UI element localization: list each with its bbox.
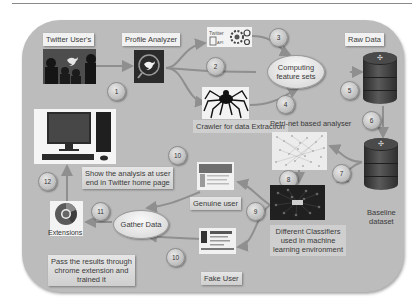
baseline-line2: dataset	[369, 217, 394, 226]
genuine-user-label: Genuine user	[190, 197, 241, 210]
step-6-badge: 6	[362, 111, 381, 130]
neural-network-icon	[270, 185, 325, 220]
step-4-badge: 4	[276, 95, 295, 114]
gear-cluster-icon: Twitter API	[207, 27, 252, 47]
baseline-dataset-label: Baselinedataset	[364, 206, 399, 228]
gather-data-node: Gather Data	[113, 210, 169, 239]
raw-data-database-icon: ✣	[363, 52, 397, 104]
step-3-badge: 3	[269, 28, 288, 47]
step-5-badge: 5	[340, 81, 359, 100]
twitter-api-image: Twitter API	[207, 27, 252, 47]
show-analysis-line1: Show the analysis at user	[85, 169, 170, 178]
step-11-badge: 11	[91, 202, 110, 221]
show-analysis-label: Show the analysis at user end in Twitter…	[82, 167, 173, 189]
profile-page-icon	[197, 162, 234, 190]
fake-user-label: Fake User	[201, 272, 242, 285]
step-1-badge: 1	[107, 82, 126, 101]
chrome-icon	[50, 201, 83, 227]
svg-text:API: API	[217, 40, 223, 45]
profile-page-icon	[199, 228, 236, 254]
twitter-search-icon	[134, 50, 164, 83]
classifiers-line1: Different Classifiers	[276, 227, 341, 236]
profile-analyzer-image	[134, 50, 164, 83]
petri-net-label: Petri-net based analyser	[267, 117, 354, 130]
classifiers-line3: learning environment	[273, 245, 343, 254]
baseline-line1: Baseline	[367, 208, 396, 217]
pass-results-line2: chrome extension and	[55, 266, 129, 275]
step-10-badge-bottom: 10	[166, 248, 185, 267]
step-7-badge: 7	[332, 164, 351, 183]
crowd-silhouette-icon	[43, 49, 96, 84]
classifiers-line2: used in machine	[281, 236, 336, 245]
network-graph-icon	[272, 132, 327, 170]
twitter-users-image	[43, 49, 96, 84]
gather-data-label: Gather Data	[121, 220, 162, 229]
computing-line2: feature sets	[276, 72, 315, 81]
database-logo-icon: ✣	[376, 54, 384, 61]
pass-results-label: Pass the results through chrome extensio…	[48, 255, 135, 286]
desktop-computer-icon	[34, 109, 116, 164]
step-10-badge-top: 10	[168, 146, 187, 165]
step-12-badge: 12	[38, 172, 57, 191]
computer-image	[34, 109, 116, 164]
baseline-database-icon: ✣	[364, 138, 398, 190]
show-analysis-line2: end in Twitter home page	[86, 178, 170, 187]
profile-analyzer-label: Profile Analyzer	[122, 33, 180, 46]
classifiers-label: Different Classifiers used in machine le…	[270, 225, 346, 256]
computing-feature-sets-node: Computingfeature sets	[267, 55, 325, 89]
fake-user-profile-image	[199, 228, 236, 254]
extensions-label: Extensions	[45, 226, 85, 239]
step-2-badge: 2	[206, 57, 225, 76]
crawler-image	[202, 87, 249, 119]
raw-data-label: Raw Data	[345, 33, 384, 46]
database-logo-icon: ✣	[377, 140, 385, 147]
pass-results-line3: trained it	[77, 275, 106, 284]
pass-results-line1: Pass the results through	[51, 257, 132, 266]
genuine-user-profile-image	[197, 162, 234, 190]
petri-net-image	[272, 132, 327, 170]
step-9-badge: 9	[246, 202, 265, 221]
computing-line1: Computing	[278, 63, 314, 72]
classifiers-image	[270, 185, 325, 220]
svg-text:Twitter: Twitter	[209, 30, 224, 36]
spider-icon	[202, 87, 249, 119]
twitter-users-label: Twitter User's	[43, 33, 94, 46]
